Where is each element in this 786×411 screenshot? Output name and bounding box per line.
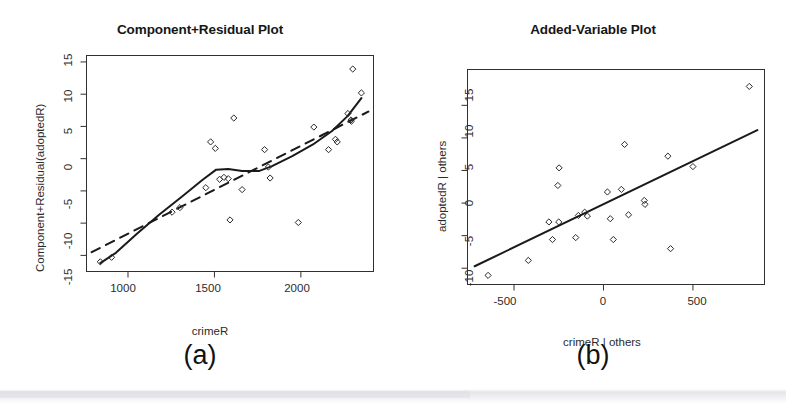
panel-component-residual: Component+Residual Plot Component+Residu… [0, 0, 400, 411]
panel-a-frame [87, 56, 374, 272]
panel-b-regression-line [475, 130, 758, 266]
panel-a-data-points [97, 66, 364, 265]
panel-a-linear-fit-line [92, 112, 369, 253]
panel-b-caption: (b) [400, 340, 786, 371]
panel-b-frame [468, 70, 765, 285]
panel-added-variable: Added-Variable Plot adoptedR | others cr… [400, 0, 786, 411]
figure-root: Component+Residual Plot Component+Residu… [0, 0, 786, 411]
panel-a-caption: (a) [0, 340, 400, 371]
panel-a-loess-curve [100, 98, 361, 263]
panel-b-data-points [485, 83, 752, 278]
scan-artifact-band-secondary [0, 391, 470, 398]
panel-b-ticks [462, 105, 693, 290]
